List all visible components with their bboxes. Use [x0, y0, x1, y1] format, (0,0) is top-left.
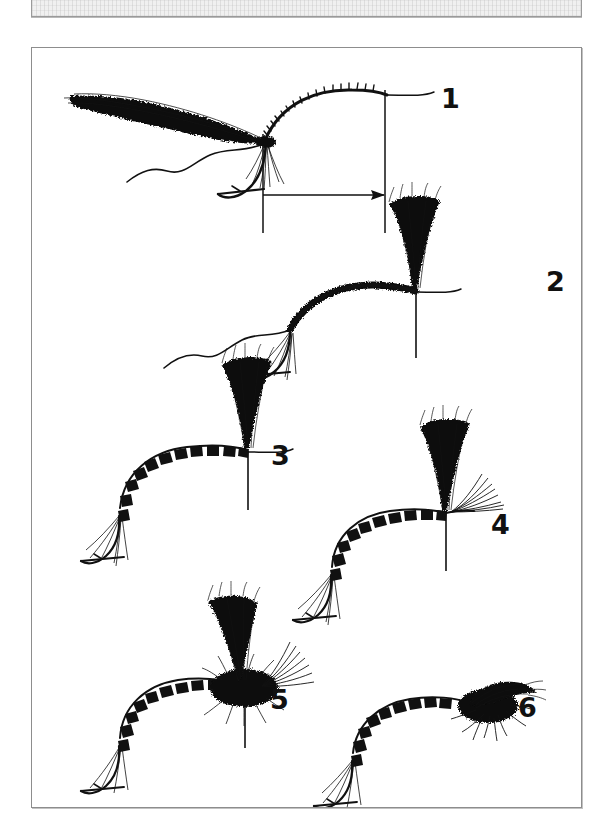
page-canvas: 1 — [0, 0, 610, 839]
step-3-number: 3 — [271, 440, 290, 471]
step-2-number: 2 — [546, 266, 565, 297]
step-1-number: 1 — [441, 83, 460, 114]
fly-tying-illustration: 1 — [32, 48, 581, 807]
cropped-text-block — [31, 0, 582, 17]
step-6-number: 6 — [518, 692, 537, 723]
step-5-number: 5 — [270, 684, 289, 715]
figure-panel: 1 — [31, 47, 582, 808]
step-1-tiein-wraps — [256, 136, 276, 148]
step-4-number: 4 — [491, 509, 510, 540]
